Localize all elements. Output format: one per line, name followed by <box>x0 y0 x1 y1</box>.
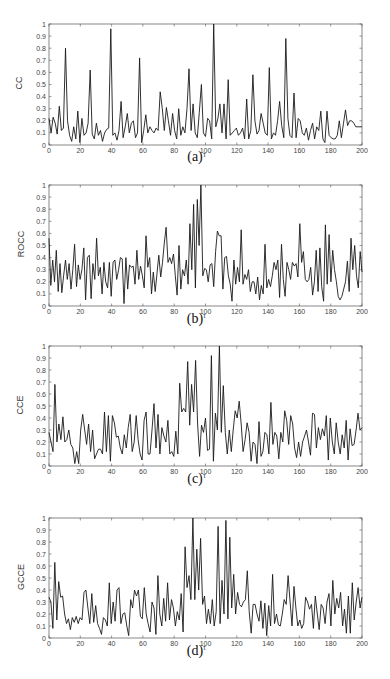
y-tick-label: 0.2 <box>36 117 46 124</box>
y-tick-label: 0.6 <box>36 563 46 570</box>
y-tick-label: 1 <box>42 343 46 350</box>
chart-gcce: 00.10.20.30.40.50.60.70.80.9102040608010… <box>36 515 368 648</box>
xlabel-a: τ <box>203 151 206 158</box>
ylabel-c: CCE <box>15 395 25 414</box>
y-tick-label: 0 <box>42 142 46 149</box>
y-tick-label: 0.7 <box>36 379 46 386</box>
data-series-line <box>49 24 362 143</box>
y-tick-label: 0.6 <box>36 391 46 398</box>
chart-cce: 00.10.20.30.40.50.60.70.80.9102040608010… <box>36 343 368 476</box>
data-series-line <box>49 518 362 636</box>
xlabel-b: τ <box>203 312 206 319</box>
y-tick-label: 0 <box>42 635 46 642</box>
y-tick-label: 0.7 <box>36 218 46 225</box>
chart-cc: 00.10.20.30.40.50.60.70.80.9102040608010… <box>36 21 368 155</box>
caption-a: (a) <box>0 149 390 165</box>
y-tick-label: 0.1 <box>36 290 46 297</box>
y-tick-label: 0.9 <box>36 194 46 201</box>
y-tick-label: 0.2 <box>36 278 46 285</box>
y-tick-label: 0.5 <box>36 403 46 410</box>
caption-b: (b) <box>0 311 390 327</box>
plot-frame <box>49 346 362 466</box>
caption-d: (d) <box>0 643 390 659</box>
y-tick-label: 0.9 <box>36 355 46 362</box>
data-series-line <box>49 185 362 304</box>
y-tick-label: 0.2 <box>36 439 46 446</box>
y-tick-label: 0.2 <box>36 611 46 618</box>
plot-frame <box>49 518 362 638</box>
y-tick-label: 0.9 <box>36 527 46 534</box>
plots-canvas: 00.10.20.30.40.50.60.70.80.9102040608010… <box>0 0 390 679</box>
y-tick-label: 0.1 <box>36 623 46 630</box>
y-tick-label: 0.5 <box>36 81 46 88</box>
y-tick-label: 0.3 <box>36 266 46 273</box>
y-tick-label: 1 <box>42 21 46 28</box>
y-tick-label: 0.8 <box>36 45 46 52</box>
data-series-line <box>49 346 362 464</box>
ylabel-a: CC <box>14 77 24 90</box>
y-tick-label: 1 <box>42 515 46 522</box>
chart-rocc: 00.10.20.30.40.50.60.70.80.9102040608010… <box>36 182 368 316</box>
y-tick-label: 0.4 <box>36 415 46 422</box>
y-tick-label: 0.4 <box>36 254 46 261</box>
ylabel-d: GCCE <box>16 564 26 590</box>
y-tick-label: 0.6 <box>36 230 46 237</box>
y-tick-label: 0.3 <box>36 105 46 112</box>
y-tick-label: 0.7 <box>36 551 46 558</box>
y-tick-label: 0.4 <box>36 587 46 594</box>
caption-c: (c) <box>0 471 390 487</box>
y-tick-label: 0.9 <box>36 33 46 40</box>
xlabel-d: τ <box>203 644 206 651</box>
y-tick-label: 0.7 <box>36 57 46 64</box>
y-tick-label: 0.8 <box>36 206 46 213</box>
y-tick-label: 0.5 <box>36 242 46 249</box>
y-tick-label: 0.1 <box>36 129 46 136</box>
y-tick-label: 0.4 <box>36 93 46 100</box>
y-tick-label: 1 <box>42 182 46 189</box>
y-tick-label: 0.8 <box>36 539 46 546</box>
y-tick-label: 0 <box>42 463 46 470</box>
ylabel-b: ROCC <box>16 231 26 258</box>
y-tick-label: 0.5 <box>36 575 46 582</box>
y-tick-label: 0 <box>42 303 46 310</box>
y-tick-label: 0.3 <box>36 427 46 434</box>
y-tick-label: 0.6 <box>36 69 46 76</box>
y-tick-label: 0.8 <box>36 367 46 374</box>
y-tick-label: 0.1 <box>36 451 46 458</box>
y-tick-label: 0.3 <box>36 599 46 606</box>
xlabel-c: τ <box>203 472 206 479</box>
